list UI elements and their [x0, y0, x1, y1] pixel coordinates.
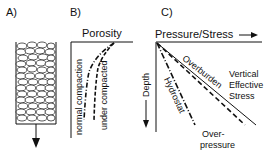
- depth-axis-title: Depth: [142, 73, 151, 97]
- panel-a-label: A): [6, 7, 17, 18]
- sediment-column: [16, 42, 56, 124]
- porosity-axis-title: Porosity: [82, 28, 122, 39]
- overpressure-label-line1: Over-: [202, 130, 225, 139]
- normal-compaction-label: normal compaction: [75, 59, 84, 135]
- pressure-stress-axis-title: Pressure/Stress: [155, 29, 233, 40]
- vertical-effective-stress-line1: Vertical: [229, 70, 259, 79]
- vertical-effective-stress-line2: Effective: [229, 81, 263, 90]
- depth-down-arrow-icon: [143, 100, 149, 128]
- under-compacted-label: under compacted: [100, 60, 109, 130]
- panel-b-label: B): [70, 7, 81, 18]
- vertical-effective-stress-line3: Stress: [229, 92, 255, 101]
- overpressure-label-line2: pressure: [200, 141, 235, 150]
- down-arrow-icon: [32, 124, 40, 148]
- right-arrow-icon: [239, 32, 258, 38]
- panel-c-label: C): [161, 7, 173, 18]
